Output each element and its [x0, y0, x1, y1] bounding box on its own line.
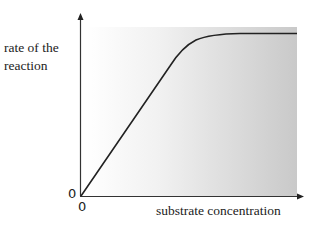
x-origin-label: 0: [78, 199, 86, 214]
y-axis-arrow-icon: [78, 13, 84, 20]
y-axis-label-line1: rate of the: [4, 39, 59, 57]
x-axis-label: substrate concentration: [156, 203, 281, 219]
y-axis-label-line2: reaction: [4, 57, 59, 75]
chart-canvas: [0, 0, 314, 226]
shaded-region: [86, 27, 297, 196]
y-axis-label: rate of the reaction: [4, 39, 59, 75]
y-origin-label: 0: [68, 186, 76, 201]
x-axis-arrow-icon: [297, 194, 304, 200]
